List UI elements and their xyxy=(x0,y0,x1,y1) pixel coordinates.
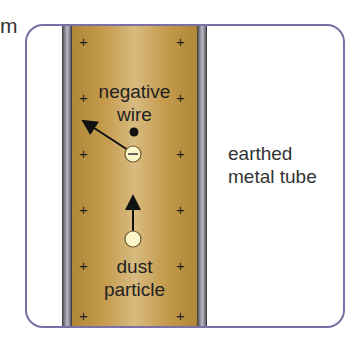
wire-dot-icon xyxy=(130,128,139,137)
label-line: metal tube xyxy=(228,165,317,188)
ion-arrow-icon xyxy=(88,124,128,150)
label-line: earthed xyxy=(228,142,317,165)
earthed-metal-tube-label: earthed metal tube xyxy=(228,142,317,188)
metal-tube: + + + + + + + + + + + + negative wire du… xyxy=(62,26,207,326)
cut-off-text: m xyxy=(0,14,18,38)
dust-particle-icon xyxy=(125,231,141,247)
arrows-layer xyxy=(62,26,207,326)
